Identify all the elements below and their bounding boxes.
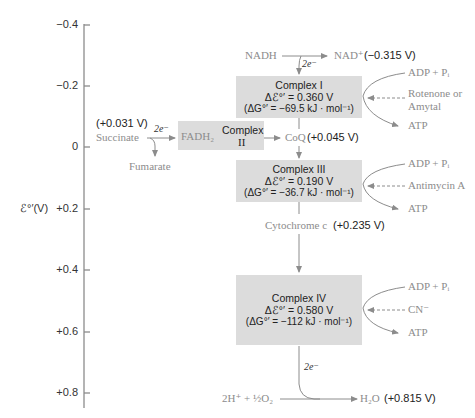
- complex-i-name: Complex I: [236, 79, 362, 92]
- water-potential: (+0.815 V): [384, 392, 436, 404]
- complex-iii-box: Complex III Δℰ°′ = 0.190 V (ΔG°′ = −36.7…: [236, 160, 362, 202]
- axis-title: ℰ°′(V): [20, 202, 48, 215]
- complex-ii-name: Complex: [222, 124, 263, 136]
- complex-iv-box: Complex IV Δℰ°′ = 0.580 V (ΔG°′ = −112 k…: [236, 275, 362, 345]
- tick-label: 0: [38, 140, 78, 152]
- complex-iii-adp: ADP + Pᵢ: [408, 157, 449, 169]
- complex-iii-delta-g: (ΔG°′ = −36.7 kJ · mol⁻¹): [236, 187, 362, 200]
- water-label: H₂O: [360, 392, 380, 404]
- cytc-potential: (+0.235 V): [333, 219, 385, 231]
- succinate-label: Succinate: [96, 131, 139, 143]
- complex-i-delta-e: Δℰ°′ = 0.360 V: [236, 91, 362, 104]
- complex-i-box: Complex I Δℰ°′ = 0.360 V (ΔG°′ = −69.5 k…: [236, 76, 362, 118]
- complex-i-delta-g: (ΔG°′ = −69.5 kJ · mol⁻¹): [236, 103, 362, 116]
- nad-label: NAD⁺: [334, 49, 364, 62]
- complex-i-inhibitor: Rotenone or: [408, 87, 462, 99]
- y-axis: [84, 24, 90, 408]
- complex-iii-name: Complex III: [236, 163, 362, 176]
- fumarate-label: Fumarate: [129, 160, 171, 172]
- complex-i-adp: ADP + Pᵢ: [408, 66, 449, 78]
- electrons-label: 2e⁻: [302, 58, 317, 69]
- coq-label: CoQ: [285, 131, 306, 143]
- fadh2-label: FADH₂: [181, 130, 214, 142]
- nadh-label: NADH: [245, 49, 277, 61]
- nad-potential: (−0.315 V): [364, 49, 416, 61]
- tick-label: +0.8: [38, 386, 78, 398]
- complex-ii-box: FADH₂ Complex II: [178, 121, 264, 150]
- succinate-potential: (+0.031 V): [96, 117, 148, 129]
- complex-iv-atp: ATP: [408, 326, 428, 338]
- tick-label: +0.4: [38, 263, 78, 275]
- tick-label: −0.4: [38, 18, 78, 30]
- tick-label: −0.2: [38, 79, 78, 91]
- cytc-label: Cytochrome c: [265, 219, 327, 231]
- complex-i-atp: ATP: [408, 119, 428, 131]
- complex-i-inhibitor-2: Amytal: [408, 100, 441, 112]
- bottom-electrons: 2e⁻: [304, 361, 319, 372]
- complex-ii-numeral: II: [238, 136, 245, 148]
- complex-iv-delta-g: (ΔG°′ = −112 kJ · mol⁻¹): [236, 316, 362, 329]
- complex-iv-delta-e: Δℰ°′ = 0.580 V: [236, 304, 362, 317]
- complex-iv-name: Complex IV: [236, 292, 362, 305]
- complex-iii-inhibitor: Antimycin A: [408, 179, 465, 191]
- succinate-electrons: 2e⁻: [154, 123, 169, 134]
- oxygen-label: 2H⁺ + ½O₂: [222, 392, 273, 405]
- coq-potential: (+0.045 V): [307, 131, 359, 143]
- complex-iii-delta-e: Δℰ°′ = 0.190 V: [236, 175, 362, 188]
- complex-iv-adp: ADP + Pᵢ: [408, 280, 449, 292]
- complex-iii-atp: ATP: [408, 202, 428, 214]
- tick-label: +0.6: [38, 325, 78, 337]
- complex-iv-inhibitor: CN⁻: [408, 303, 429, 316]
